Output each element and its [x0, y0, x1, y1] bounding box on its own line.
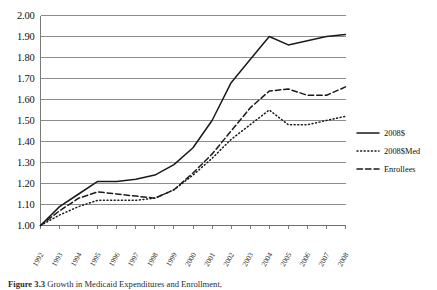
xtick-label-2006: 2006 [297, 251, 312, 268]
ytick-label-2.00: 2.00 [17, 10, 35, 21]
ytick-label-1.60: 1.60 [17, 94, 35, 105]
line-chart: 1.001.101.201.301.401.501.601.701.801.90… [0, 0, 437, 290]
xtick-label-1994: 1994 [69, 251, 84, 268]
xtick-label-1995: 1995 [88, 251, 103, 268]
ytick-label-1.70: 1.70 [17, 73, 35, 84]
xtick-label-2005: 2005 [278, 251, 293, 268]
xtick-label-1996: 1996 [107, 251, 122, 268]
series-line-2008-med [41, 110, 346, 226]
xtick-label-2008: 2008 [335, 251, 350, 268]
series-line-2008- [41, 34, 346, 225]
legend-item-2008-dollars-label: 2008$ [384, 129, 405, 138]
xtick-label-1992: 1992 [30, 251, 45, 268]
xtick-label-2004: 2004 [259, 251, 274, 268]
ytick-label-1.20: 1.20 [17, 178, 35, 189]
ytick-label-1.90: 1.90 [17, 31, 35, 42]
xtick-label-2007: 2007 [316, 251, 331, 268]
figure-caption: Figure 3.3 Growth in Medicaid Expenditur… [8, 279, 428, 289]
ytick-label-1.40: 1.40 [17, 136, 35, 147]
xtick-label-1993: 1993 [50, 251, 65, 268]
ytick-label-1.50: 1.50 [17, 115, 35, 126]
ytick-label-1.00: 1.00 [17, 220, 35, 231]
ytick-label-1.30: 1.30 [17, 157, 35, 168]
figure-container: 1.001.101.201.301.401.501.601.701.801.90… [0, 0, 437, 290]
ytick-label-1.10: 1.10 [17, 199, 35, 210]
xtick-label-1999: 1999 [164, 251, 179, 268]
figure-caption-text: Growth in Medicaid Expenditures and Enro… [47, 279, 222, 289]
xtick-label-2002: 2002 [221, 251, 236, 268]
legend-item-2008-dollars-med-label: 2008$Med [384, 147, 421, 156]
legend-item-enrollees-label: Enrollees [384, 165, 416, 174]
xtick-label-2003: 2003 [240, 251, 255, 268]
xtick-label-2000: 2000 [183, 251, 198, 268]
ytick-label-1.80: 1.80 [17, 52, 35, 63]
figure-caption-label: Figure 3.3 [8, 279, 45, 289]
xtick-label-1997: 1997 [126, 251, 141, 268]
xtick-label-2001: 2001 [202, 251, 217, 268]
xtick-label-1998: 1998 [145, 251, 160, 268]
